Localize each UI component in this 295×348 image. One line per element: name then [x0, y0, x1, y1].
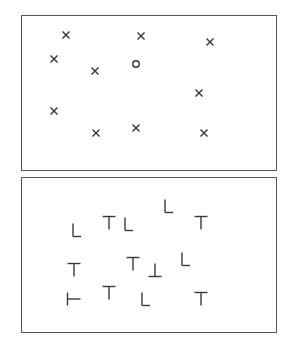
- l-shape-icon: [165, 200, 173, 213]
- x-distractor-icon: [201, 130, 208, 137]
- t-shape-icon: [127, 258, 140, 271]
- t-shape-icon: [68, 264, 81, 277]
- conjunction-search-panel: [21, 177, 277, 333]
- l-shape-icon: [73, 224, 81, 237]
- x-distractor-icon: [93, 130, 100, 137]
- x-distractor-icon: [51, 108, 58, 115]
- x-distractor-icon: [63, 32, 70, 39]
- x-distractor-icon: [92, 68, 99, 75]
- t-shape-icon: [103, 287, 116, 300]
- t-shape-icon: [103, 217, 116, 230]
- l-shape-icon: [182, 253, 190, 266]
- x-distractor-icon: [138, 33, 145, 40]
- x-distractor-icon: [196, 90, 203, 97]
- l-shape-icon: [142, 293, 150, 306]
- o-target-icon: [133, 61, 140, 68]
- t-shape-icon: [195, 293, 208, 306]
- t-shape-icon: [195, 217, 208, 230]
- x-distractor-icon: [133, 125, 140, 132]
- feature-search-panel: [21, 15, 277, 171]
- x-distractor-icon: [207, 39, 214, 46]
- feature-search-panel-stimuli: [22, 16, 278, 172]
- t-shape-icon: [149, 264, 162, 277]
- t-shape-icon: [68, 293, 81, 306]
- conjunction-search-panel-stimuli: [22, 178, 278, 334]
- l-shape-icon: [125, 218, 133, 231]
- x-distractor-icon: [51, 56, 58, 63]
